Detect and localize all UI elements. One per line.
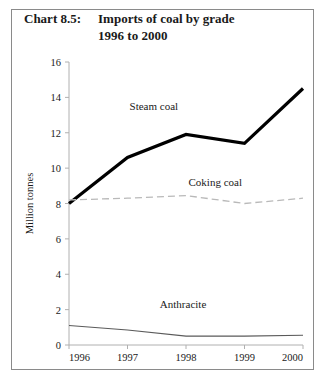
y-tick-label: 0 [56, 340, 61, 351]
x-tick-label: 1997 [117, 352, 138, 363]
x-tick-label: 1999 [234, 352, 255, 363]
x-tick-label: 1996 [69, 352, 90, 363]
y-axis-ticks: 0246810121416 [51, 57, 70, 351]
plot-area: 0246810121416 19961997199819992000 Steam… [11, 9, 314, 370]
series-line-anthracite [69, 326, 303, 337]
series-label-group: Steam coalCoking coalAnthracite [130, 100, 242, 310]
y-tick-label: 14 [51, 92, 62, 103]
y-tick-label: 4 [56, 269, 62, 280]
series-line-steam-coal [69, 89, 303, 204]
x-tick-label: 2000 [282, 352, 303, 363]
y-tick-label: 10 [51, 163, 62, 174]
y-tick-label: 2 [56, 305, 61, 316]
y-tick-label: 16 [51, 57, 62, 68]
y-tick-label: 8 [56, 199, 61, 210]
y-axis-title: Million tonnes [24, 173, 35, 235]
series-line-coking-coal [69, 196, 303, 204]
series-label-anthracite: Anthracite [160, 298, 207, 310]
x-axis-ticks: 19961997199819992000 [69, 345, 303, 363]
chart-figure: Chart 8.5: Imports of coal by grade 1996… [0, 0, 325, 380]
line-chart: 0246810121416 19961997199819992000 Steam… [11, 9, 314, 370]
series-label-steam-coal: Steam coal [130, 100, 179, 112]
y-tick-label: 6 [56, 234, 61, 245]
x-tick-label: 1998 [176, 352, 197, 363]
series-label-coking-coal: Coking coal [189, 176, 242, 188]
y-tick-label: 12 [51, 128, 62, 139]
